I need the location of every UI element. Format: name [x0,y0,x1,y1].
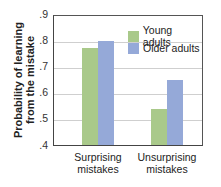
legend-swatch-older [128,43,139,54]
y-tick-0.4: .4 [28,139,48,151]
bar-unsurprising-older [167,80,183,145]
bar-unsurprising-young [151,109,167,145]
legend-label-older: Older adults [143,42,200,54]
legend-older-adults: Older adults [128,42,200,54]
legend-swatch-young [128,31,139,42]
x-label-unsurprising-line-2: mistakes [132,163,202,175]
x-label-surprising-line-1: Surprising [63,151,133,163]
bar-surprising-older [98,41,114,145]
plot-area: Young adults Older adults [53,15,203,146]
x-label-surprising: Surprising mistakes [63,151,133,175]
y-tick-0.8: .8 [28,34,48,46]
y-tick-0.9: .9 [28,8,48,20]
gridline-0.7 [54,68,202,69]
x-label-unsurprising-line-1: Unsurprising [132,151,202,163]
x-label-unsurprising: Unsurprising mistakes [132,151,202,175]
y-tick-0.6: .6 [28,86,48,98]
y-tick-0.7: .7 [28,60,48,72]
x-label-surprising-line-2: mistakes [63,163,133,175]
y-axis-label-line-1: Probability of learning [12,14,24,146]
bar-surprising-young [82,48,98,145]
y-tick-0.5: .5 [28,112,48,124]
